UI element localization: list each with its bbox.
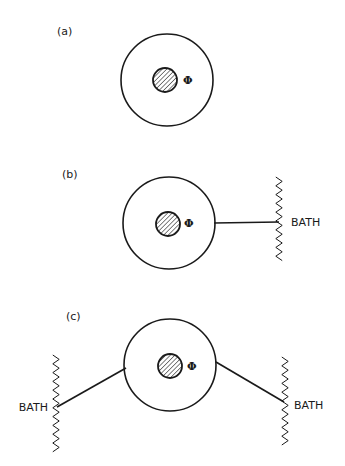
panel-c: (c) Φ BATHBATH: [19, 310, 323, 452]
coupling-line: [216, 362, 284, 402]
bath-label: BATH: [294, 399, 323, 412]
panel-label-b: (b): [62, 168, 78, 181]
phi-symbol: Φ: [187, 360, 197, 373]
phi-symbol: Φ: [184, 217, 194, 230]
bath-wall-zigzag: [276, 177, 282, 261]
panel-a: (a) Φ: [57, 25, 213, 126]
hatched-core: [153, 68, 177, 92]
bath-label: BATH: [19, 401, 48, 414]
coupling-line: [214, 222, 279, 223]
hatched-core: [156, 212, 180, 236]
panel-label-a: (a): [57, 25, 72, 38]
bath-wall-zigzag: [53, 355, 59, 452]
phi-symbol: Φ: [183, 74, 193, 87]
panel-label-c: (c): [66, 310, 81, 323]
heat-bath: BATH: [214, 177, 320, 261]
system-bath-diagram: (a) Φ (b) Φ BATH (c) Φ BATHBATH: [0, 0, 345, 466]
bath-label: BATH: [291, 216, 320, 229]
panel-b: (b) Φ BATH: [62, 168, 320, 269]
heat-bath: BATH: [216, 357, 323, 445]
heat-bath: BATH: [19, 355, 126, 452]
bath-group: BATH: [214, 177, 320, 261]
coupling-line: [57, 368, 126, 407]
hatched-core: [158, 354, 182, 378]
